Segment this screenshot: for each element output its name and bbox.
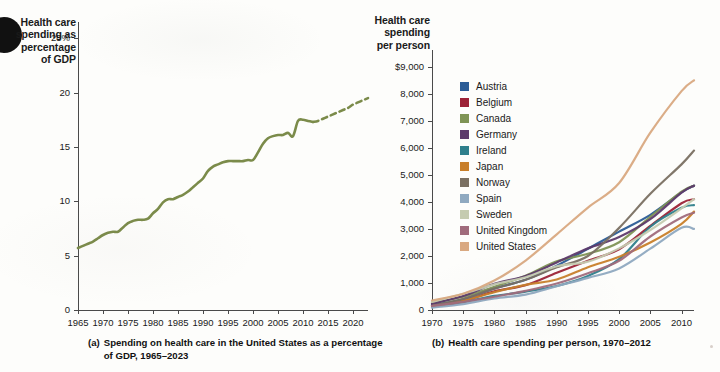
- legend-swatch-icon: [460, 162, 469, 171]
- panel-b-plot-area: AustriaBelgiumCanadaGermanyIrelandJapanN…: [432, 56, 694, 310]
- panel-a-gdp-share: Health carespending aspercentageof GDP 0…: [0, 0, 392, 372]
- panel-b-x-tick-label: 2000: [603, 317, 635, 328]
- panel-b-y-tick: [428, 148, 432, 149]
- panel-a-x-tick: [128, 310, 129, 314]
- panel-b-y-tick-label: 0: [380, 304, 424, 315]
- panel-b-caption-tag: (b): [432, 336, 444, 349]
- legend-item[interactable]: Norway: [460, 174, 547, 190]
- panel-b-y-tick: [428, 229, 432, 230]
- panel-a-y-tick-label: 0: [30, 304, 70, 315]
- legend-item-label: Spain: [476, 193, 502, 204]
- legend-item-label: Sweden: [476, 209, 512, 220]
- panel-a-x-tick: [153, 310, 154, 314]
- legend-item-label: United Kingdom: [476, 225, 547, 236]
- panel-b-y-tick-label: 8,000: [380, 88, 424, 99]
- legend-item-label: Japan: [476, 161, 503, 172]
- panel-b-spending-per-person: Health carespendingper person AustriaBel…: [380, 0, 720, 372]
- legend-swatch-icon: [460, 82, 469, 91]
- legend-swatch-icon: [460, 242, 469, 251]
- panel-a-x-tick: [303, 310, 304, 314]
- figure-two-panel-health-care: Health carespending aspercentageof GDP 0…: [0, 0, 720, 372]
- legend-item[interactable]: Germany: [460, 126, 547, 142]
- panel-a-x-tick-label: 2020: [337, 317, 369, 328]
- panel-b-y-tick-label: 2,000: [380, 250, 424, 261]
- panel-a-plot-area: 0510152025%19651970197519801985199019952…: [78, 22, 368, 310]
- legend-swatch-icon: [460, 210, 469, 219]
- legend-item[interactable]: United Kingdom: [460, 222, 547, 238]
- legend-item[interactable]: Austria: [460, 78, 547, 94]
- legend-swatch-icon: [460, 194, 469, 203]
- panel-b-x-tick: [432, 310, 433, 314]
- panel-a-y-tick-label: 25%: [30, 32, 70, 43]
- legend-item[interactable]: Spain: [460, 190, 547, 206]
- legend-item[interactable]: Belgium: [460, 94, 547, 110]
- legend-item[interactable]: Japan: [460, 158, 547, 174]
- panel-a-x-tick: [103, 310, 104, 314]
- panel-a-x-tick: [178, 310, 179, 314]
- legend-swatch-icon: [460, 98, 469, 107]
- panel-b-x-tick-label: 1970: [416, 317, 448, 328]
- panel-b-x-tick: [682, 310, 683, 314]
- panel-a-x-tick: [228, 310, 229, 314]
- panel-b-x-tick: [557, 310, 558, 314]
- panel-b-x-tick-label: 1975: [447, 317, 479, 328]
- panel-a-y-tick-label: 10: [30, 195, 70, 206]
- panel-a-x-tick: [328, 310, 329, 314]
- panel-b-x-tick: [494, 310, 495, 314]
- legend-item[interactable]: Sweden: [460, 206, 547, 222]
- legend-swatch-icon: [460, 146, 469, 155]
- panel-b-x-tick-label: 1980: [478, 317, 510, 328]
- panel-b-y-tick-label: 3,000: [380, 223, 424, 234]
- panel-b-x-tick: [588, 310, 589, 314]
- legend-item[interactable]: Canada: [460, 110, 547, 126]
- panel-a-series-dashed: [313, 98, 368, 122]
- panel-b-y-tick: [428, 283, 432, 284]
- panel-a-x-tick: [353, 310, 354, 314]
- panel-a-caption-tag: (a): [88, 336, 100, 349]
- panel-b-x-tick: [650, 310, 651, 314]
- panel-a-x-axis: [78, 310, 368, 311]
- legend-item[interactable]: United States: [460, 238, 547, 254]
- panel-b-y-tick: [428, 256, 432, 257]
- panel-b-x-tick-label: 2005: [634, 317, 666, 328]
- panel-b-y-tick: [428, 202, 432, 203]
- legend-swatch-icon: [460, 114, 469, 123]
- panel-a-series-solid: [78, 119, 313, 248]
- panel-b-caption-text: Health care spending per person, 1970–20…: [448, 336, 651, 349]
- panel-a-y-tick: [74, 38, 78, 39]
- legend-swatch-icon: [460, 178, 469, 187]
- panel-a-caption-text: Spending on health care in the United St…: [104, 336, 388, 362]
- legend-item-label: Austria: [476, 81, 507, 92]
- panel-b-x-tick: [619, 310, 620, 314]
- panel-b-y-tick: [428, 94, 432, 95]
- panel-b-y-tick: [428, 67, 432, 68]
- panel-b-axis-title: Health carespendingper person: [352, 14, 430, 51]
- panel-a-y-tick-label: 20: [30, 87, 70, 98]
- panel-b-y-tick: [428, 121, 432, 122]
- panel-a-x-tick: [253, 310, 254, 314]
- panel-b-x-tick-label: 1990: [541, 317, 573, 328]
- panel-a-y-tick: [74, 147, 78, 148]
- panel-a-y-tick: [74, 256, 78, 257]
- legend-item-label: Ireland: [476, 145, 507, 156]
- legend-item-label: Germany: [476, 129, 517, 140]
- panel-a-x-tick: [278, 310, 279, 314]
- legend-item-label: Belgium: [476, 97, 512, 108]
- panel-b-y-tick: [428, 175, 432, 176]
- panel-b-legend: AustriaBelgiumCanadaGermanyIrelandJapanN…: [460, 78, 547, 254]
- legend-swatch-icon: [460, 130, 469, 139]
- legend-item[interactable]: Ireland: [460, 142, 547, 158]
- legend-item-label: Norway: [476, 177, 510, 188]
- panel-b-x-tick-label: 1995: [572, 317, 604, 328]
- panel-a-x-tick: [203, 310, 204, 314]
- panel-a-x-tick: [78, 310, 79, 314]
- panel-b-y-tick-label: 6,000: [380, 142, 424, 153]
- panel-b-y-tick-label: 4,000: [380, 196, 424, 207]
- legend-swatch-icon: [460, 226, 469, 235]
- panel-b-x-tick: [463, 310, 464, 314]
- panel-a-y-tick: [74, 93, 78, 94]
- panel-b-y-tick-label: 7,000: [380, 115, 424, 126]
- panel-b-y-tick-label: 5,000: [380, 169, 424, 180]
- panel-b-y-tick-label: $9,000: [380, 61, 424, 72]
- panel-a-y-tick-label: 5: [30, 250, 70, 261]
